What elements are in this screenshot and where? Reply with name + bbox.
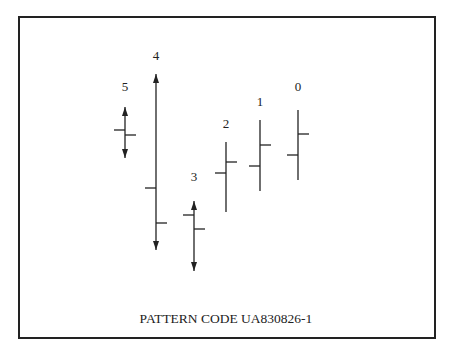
bars-group: 543210 — [114, 48, 309, 271]
bar-label: 5 — [122, 79, 129, 94]
bar-label: 0 — [295, 79, 302, 94]
ohlc-bar: 5 — [114, 79, 136, 158]
arrow-up-icon — [191, 201, 197, 210]
arrow-down-icon — [122, 149, 128, 158]
ohlc-bar: 3 — [183, 169, 205, 271]
arrow-down-icon — [191, 262, 197, 271]
ohlc-chart: 543210 PATTERN CODE UA830826-1 — [0, 0, 449, 357]
ohlc-bar: 4 — [145, 48, 167, 250]
arrow-up-icon — [153, 74, 159, 83]
pattern-code-caption: PATTERN CODE UA830826-1 — [140, 311, 313, 326]
bar-label: 2 — [223, 116, 230, 131]
ohlc-bar: 0 — [287, 79, 309, 180]
ohlc-bar: 1 — [249, 94, 271, 191]
bar-label: 1 — [257, 94, 264, 109]
bar-label: 4 — [153, 48, 160, 63]
arrow-down-icon — [153, 241, 159, 250]
arrow-up-icon — [122, 107, 128, 116]
bar-label: 3 — [191, 169, 198, 184]
ohlc-bar: 2 — [215, 116, 237, 212]
